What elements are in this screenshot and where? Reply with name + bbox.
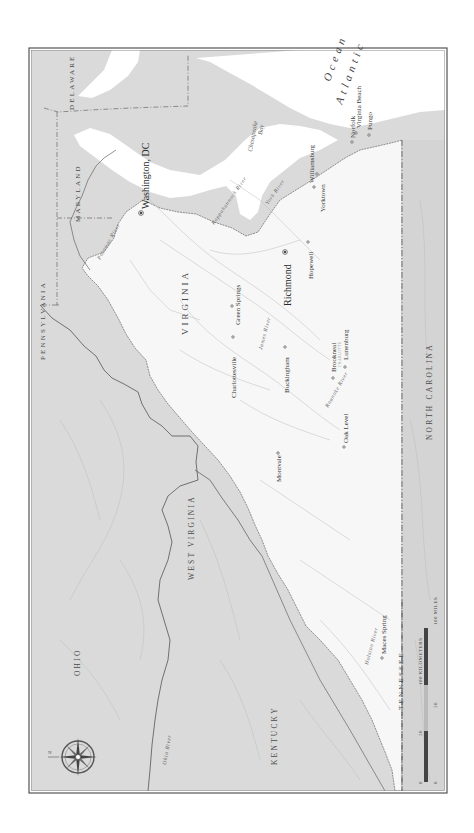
- scale-mile-50: 50: [433, 702, 438, 708]
- svg-text:N: N: [48, 750, 52, 755]
- label-kentucky: Kentucky: [270, 706, 279, 765]
- label-north-carolina: North Carolina: [425, 343, 434, 440]
- scale-miles-label: 100 Miles: [433, 597, 438, 625]
- scale-mile-0: 0: [433, 781, 438, 784]
- label-charlottesville: Charlottesville: [230, 357, 238, 398]
- scale-km-label: 100 Kilometers: [418, 638, 423, 685]
- north-carolina-land: [402, 140, 445, 791]
- label-pungo: Pungo: [366, 112, 374, 130]
- label-hopewell: Hopewell: [307, 252, 315, 279]
- label-virginia-beach: Virginia Beach: [355, 85, 363, 128]
- label-maryland: Maryland: [74, 164, 82, 222]
- label-yorktown: Yorktown: [319, 184, 327, 212]
- virginia-map: Delaware Maryland Pennsylvania Virginia …: [0, 0, 474, 833]
- label-green-springs-1: Green Springs: [234, 284, 242, 325]
- label-williamsburg: Williamsburg: [308, 144, 316, 183]
- scale-km-50: 50: [418, 730, 423, 736]
- label-tennessee: Tennessee: [397, 651, 405, 710]
- label-maces-spring: Maces Spring: [380, 615, 388, 654]
- scale-km-0: 0: [418, 781, 423, 784]
- label-delaware: Delaware: [68, 54, 76, 110]
- label-virginia: Virginia: [180, 270, 190, 335]
- label-ohio: Ohio: [73, 648, 82, 676]
- label-richmond: Richmond: [282, 264, 293, 306]
- label-washington-dc: Washington, DC: [140, 142, 151, 209]
- label-pennsylvania: Pennsylvania: [39, 281, 47, 360]
- label-lunenburg: Lunenburg: [342, 329, 350, 360]
- label-oak-level: Oak Level: [342, 414, 350, 443]
- label-west-virginia: West Virginia: [187, 495, 196, 580]
- label-montvale: Montvale: [275, 455, 283, 482]
- label-brookneal: Brookneal: [330, 343, 338, 372]
- label-buckingham: Buckingham: [283, 357, 291, 393]
